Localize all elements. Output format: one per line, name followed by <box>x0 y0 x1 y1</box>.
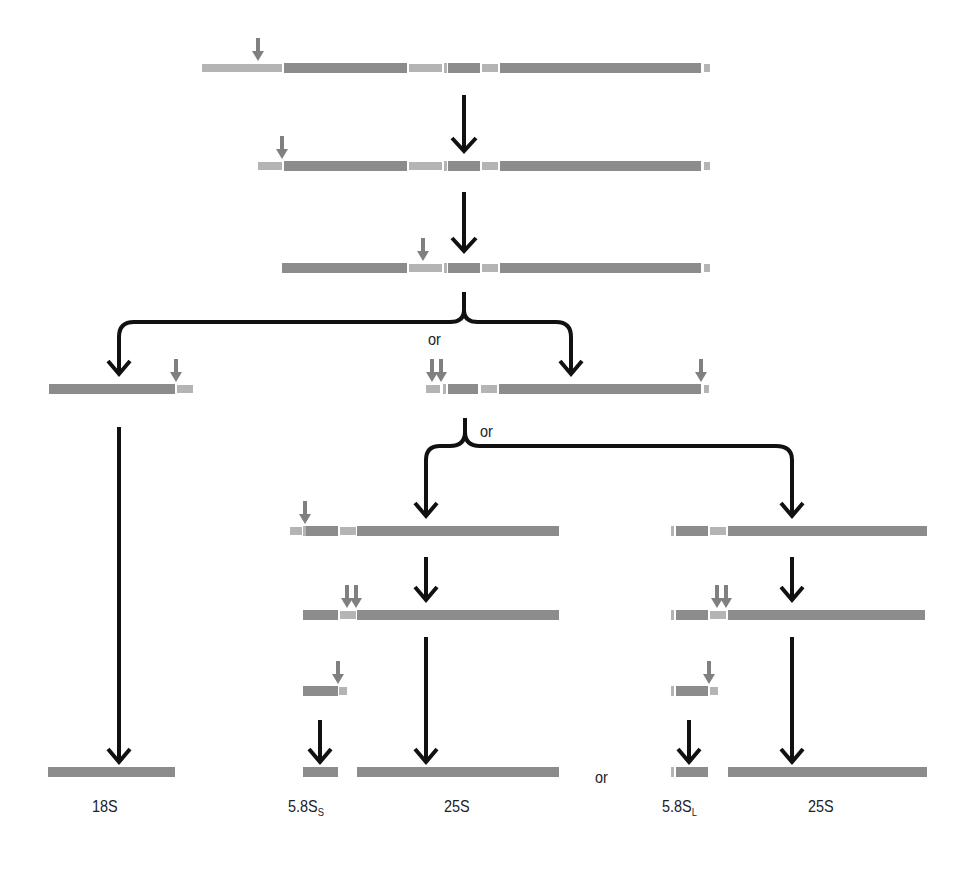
spacer-segment <box>482 162 498 170</box>
or-label-1: or <box>428 330 441 350</box>
cleavage-arrow-icon <box>711 585 723 608</box>
mature-segment <box>499 384 701 394</box>
label-5-8s-short: 5.8SS <box>288 797 324 818</box>
mature-segment <box>448 161 480 171</box>
spacer-segment <box>704 385 709 393</box>
cleavage-arrow-icon <box>695 359 707 382</box>
cleavage-arrow-icon <box>435 359 447 382</box>
mature-segment <box>303 767 338 777</box>
label-25s-a: 25S <box>444 797 470 817</box>
cleavage-arrow-icon <box>350 585 362 608</box>
mature-segment <box>500 161 701 171</box>
spacer-segment <box>409 162 442 170</box>
mature-segment <box>448 63 480 73</box>
mature-segment <box>448 384 478 394</box>
label-25s-b: 25S <box>808 797 834 817</box>
cleavage-arrow-icon <box>299 501 311 524</box>
label-5-8s-short-sub: S <box>318 806 324 818</box>
tick-segment <box>444 161 447 171</box>
spacer-segment <box>177 385 193 393</box>
tick-segment <box>671 767 674 777</box>
mature-segment <box>49 384 175 394</box>
mature-segment <box>303 610 338 620</box>
process-arrow <box>452 95 476 251</box>
mature-segment <box>500 63 701 73</box>
branch-brace-1 <box>108 292 582 374</box>
spacer-segment <box>710 611 726 619</box>
rrna-processing-diagram: or or or 18S 5.8SS 25S 5.8SL 25S <box>0 0 977 870</box>
spacer-segment <box>290 527 302 535</box>
tick-segment <box>671 686 674 696</box>
or-label-2: or <box>480 422 493 442</box>
mature-segment <box>306 526 338 536</box>
label-5-8s-long-base: 5.8S <box>662 797 692 816</box>
or-label-3: or <box>595 768 608 788</box>
spacer-segment <box>340 527 356 535</box>
spacer-segment <box>481 385 497 393</box>
mature-segment <box>284 63 407 73</box>
mature-segment <box>303 686 338 696</box>
mature-segment <box>357 767 559 777</box>
spacer-segment <box>482 64 498 72</box>
process-arrow-18s <box>108 427 130 762</box>
label-18s: 18S <box>92 797 118 817</box>
mature-segment <box>357 526 559 536</box>
mature-segment <box>284 161 407 171</box>
label-5-8s-short-base: 5.8S <box>288 797 318 816</box>
mature-segment <box>676 686 708 696</box>
spacer-segment <box>258 162 282 170</box>
label-5-8s-long-sub: L <box>692 806 697 818</box>
spacer-segment <box>710 687 718 695</box>
cleavage-arrow-icon <box>276 136 288 159</box>
tick-segment <box>671 526 674 536</box>
spacer-segment <box>426 385 440 393</box>
mature-segment <box>728 526 927 536</box>
cleavage-arrow-icon <box>341 585 353 608</box>
spacer-segment <box>339 687 347 695</box>
label-5-8s-long: 5.8SL <box>662 797 697 818</box>
tick-segment <box>444 63 447 73</box>
cleavage-arrow-icon <box>720 585 732 608</box>
cleavage-arrow-icon <box>170 359 182 382</box>
mature-segment <box>500 263 701 273</box>
mature-segment <box>728 610 925 620</box>
spacer-segment <box>202 64 282 72</box>
branch-brace-2 <box>415 418 803 516</box>
mature-segment <box>676 610 708 620</box>
mature-segment <box>282 263 407 273</box>
cleavage-arrows <box>170 38 732 684</box>
tick-segment <box>443 384 446 394</box>
cleavage-arrow-icon <box>252 38 264 61</box>
mature-segment <box>676 526 708 536</box>
spacer-segment <box>409 264 442 272</box>
mature-segment <box>676 767 708 777</box>
spacer-segment <box>704 162 710 170</box>
cleavage-arrow-icon <box>417 238 429 261</box>
mature-segment <box>357 610 559 620</box>
spacer-segment <box>704 64 710 72</box>
cleavage-arrow-icon <box>332 661 344 684</box>
mature-segment <box>728 767 927 777</box>
cleavage-arrow-icon <box>426 359 438 382</box>
spacer-segment <box>704 264 710 272</box>
spacer-segment <box>710 527 726 535</box>
tick-segment <box>671 610 674 620</box>
cleavage-arrow-icon <box>703 661 715 684</box>
spacer-segment <box>482 264 498 272</box>
spacer-segment <box>409 64 442 72</box>
spacer-segment <box>340 611 356 619</box>
mature-segment <box>48 767 175 777</box>
tick-segment <box>444 263 447 273</box>
mature-segment <box>448 263 480 273</box>
process-arrows-lower <box>309 557 803 762</box>
